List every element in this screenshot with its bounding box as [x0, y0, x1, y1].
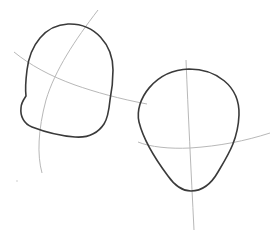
right-head-vertical-guide [186, 60, 194, 230]
left-head-outline [21, 24, 113, 137]
sketch-canvas [0, 0, 278, 237]
left-head-vertical-guide [39, 10, 98, 173]
stray-dot [16, 180, 18, 182]
left-head-horizontal-guide [14, 52, 147, 104]
right-head-horizontal-guide [138, 133, 270, 148]
right-head-outline [138, 69, 239, 191]
